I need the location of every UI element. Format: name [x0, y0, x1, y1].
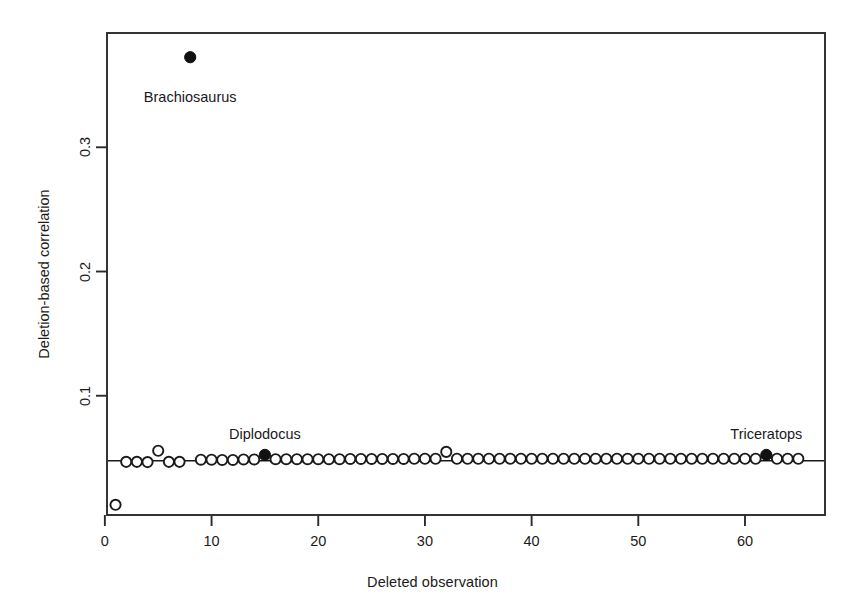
point-annotation-label: Brachiosaurus [144, 89, 237, 105]
y-axis-title: Deletion-based correlation [36, 189, 52, 358]
y-tick-label: 0.3 [77, 137, 93, 157]
open-circle-markers [110, 446, 803, 510]
x-tick-label: 10 [203, 533, 219, 549]
x-tick-label: 30 [417, 533, 433, 549]
x-tick-label: 60 [737, 533, 753, 549]
y-tick-label: 0.2 [77, 261, 93, 281]
y-tick-label: 0.1 [77, 386, 93, 406]
filled-circle-markers [185, 52, 772, 461]
x-tick-label: 20 [310, 533, 326, 549]
point-annotation-label: Diplodocus [229, 426, 301, 442]
scatter-plot-canvas [0, 0, 865, 611]
x-axis [105, 515, 745, 526]
x-tick-label: 50 [630, 533, 646, 549]
x-tick-label: 0 [101, 533, 109, 549]
point-annotation-label: Triceratops [730, 426, 802, 442]
plot-frame [107, 33, 825, 515]
y-axis [96, 147, 107, 395]
x-axis-title: Deleted observation [0, 574, 865, 590]
x-tick-label: 40 [524, 533, 540, 549]
figure-container: Deletion-based correlation Deleted obser… [0, 0, 865, 611]
